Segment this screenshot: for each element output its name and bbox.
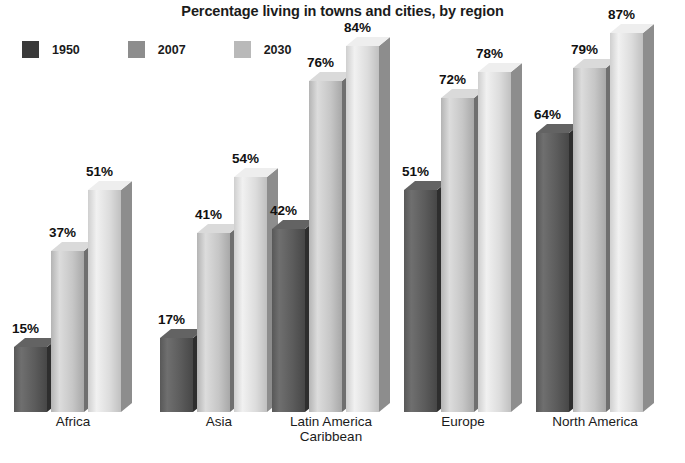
- bar-1950-africa[interactable]: 15%: [14, 347, 47, 412]
- category-label: Europe: [404, 414, 522, 429]
- bar-front-face: [478, 72, 511, 412]
- category-label: Africa: [14, 414, 132, 429]
- bar-value-label: 78%: [476, 46, 503, 61]
- bar-front-face: [197, 233, 230, 412]
- bar-value-label: 17%: [158, 312, 185, 327]
- bar-value-label: 41%: [195, 207, 222, 222]
- bar-value-label: 87%: [608, 7, 635, 22]
- bar-chart: Percentage living in towns and cities, b…: [0, 0, 685, 463]
- bar-1950-europe[interactable]: 51%: [404, 190, 437, 412]
- bar-2007-africa[interactable]: 37%: [51, 251, 84, 412]
- bar-value-label: 51%: [402, 164, 429, 179]
- category-label: North America: [536, 414, 654, 429]
- bar-front-face: [234, 177, 267, 412]
- bar-2007-latin-america[interactable]: 76%: [309, 81, 342, 412]
- bar-front-face: [441, 98, 474, 412]
- bar-2030-latin-america[interactable]: 84%: [346, 46, 379, 412]
- plot-area: 15%37%51%Africa17%41%54%Asia42%76%84%Lat…: [0, 0, 685, 463]
- bar-group-africa: 15%37%51%Africa: [14, 0, 132, 463]
- bar-front-face: [272, 229, 305, 412]
- bar-group-europe: 51%72%78%Europe: [404, 0, 522, 463]
- bar-front-face: [51, 251, 84, 412]
- bar-2007-europe[interactable]: 72%: [441, 98, 474, 412]
- bar-value-label: 79%: [571, 42, 598, 57]
- bar-value-label: 84%: [344, 20, 371, 35]
- bar-value-label: 15%: [12, 321, 39, 336]
- bar-value-label: 54%: [232, 151, 259, 166]
- bar-side-face: [643, 24, 654, 412]
- bar-value-label: 76%: [307, 55, 334, 70]
- bar-value-label: 42%: [270, 203, 297, 218]
- bar-2030-north-america[interactable]: 87%: [610, 33, 643, 412]
- bar-value-label: 72%: [439, 72, 466, 87]
- bar-2030-africa[interactable]: 51%: [88, 190, 121, 412]
- bar-front-face: [309, 81, 342, 412]
- bar-2030-asia[interactable]: 54%: [234, 177, 267, 412]
- bar-1950-asia[interactable]: 17%: [160, 338, 193, 412]
- bar-2007-asia[interactable]: 41%: [197, 233, 230, 412]
- bar-front-face: [536, 133, 569, 412]
- bar-group-asia: 17%41%54%Asia: [160, 0, 278, 463]
- bar-group-latin-america: 42%76%84%Latin America Caribbean: [272, 0, 390, 463]
- bar-2007-north-america[interactable]: 79%: [573, 68, 606, 412]
- bar-value-label: 37%: [49, 225, 76, 240]
- bar-2030-europe[interactable]: 78%: [478, 72, 511, 412]
- bar-front-face: [88, 190, 121, 412]
- bar-front-face: [14, 347, 47, 412]
- bar-group-north-america: 64%79%87%North America: [536, 0, 654, 463]
- bar-value-label: 51%: [86, 164, 113, 179]
- bar-front-face: [404, 190, 437, 412]
- bar-1950-north-america[interactable]: 64%: [536, 133, 569, 412]
- bar-value-label: 64%: [534, 107, 561, 122]
- bar-side-face: [379, 37, 390, 412]
- bar-front-face: [160, 338, 193, 412]
- bar-front-face: [610, 33, 643, 412]
- category-label: Asia: [160, 414, 278, 429]
- bar-1950-latin-america[interactable]: 42%: [272, 229, 305, 412]
- bar-side-face: [121, 181, 132, 412]
- bar-front-face: [573, 68, 606, 412]
- bar-front-face: [346, 46, 379, 412]
- category-label: Latin America Caribbean: [272, 414, 390, 444]
- bar-side-face: [511, 63, 522, 412]
